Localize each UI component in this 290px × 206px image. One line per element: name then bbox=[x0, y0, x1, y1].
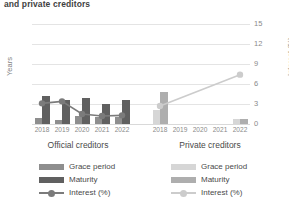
y-axis-right-tick: 15 bbox=[254, 19, 289, 28]
group-caption-official: Official creditors bbox=[23, 140, 133, 150]
chart-title: and private creditors bbox=[4, 0, 90, 9]
legend-label-interest: Interest (%) bbox=[69, 186, 110, 199]
interest-marker bbox=[119, 112, 125, 118]
legend-swatch-maturity-icon bbox=[39, 177, 64, 183]
y-axis-right-tick: 3 bbox=[254, 99, 289, 108]
legend-swatch-grace-icon bbox=[39, 164, 64, 170]
interest-marker bbox=[39, 100, 45, 106]
legend-item-grace-private[interactable]: Grace period bbox=[171, 160, 247, 173]
interest-marker bbox=[99, 113, 105, 119]
y-axis-left-title: Years bbox=[5, 47, 14, 87]
legend-line-marker-interest-icon bbox=[39, 189, 64, 196]
interest-series-overlay bbox=[32, 24, 250, 124]
interest-line bbox=[160, 75, 240, 106]
y-axis-right-title: Interest (%) bbox=[286, 29, 290, 85]
y-axis-right-tick: 6 bbox=[254, 79, 289, 88]
legend-item-interest-private[interactable]: Interest (%) bbox=[171, 186, 247, 199]
legend-item-grace-official[interactable]: Grace period bbox=[39, 160, 115, 173]
legend-label-grace: Grace period bbox=[69, 160, 115, 173]
legend-label-grace: Grace period bbox=[201, 160, 247, 173]
interest-marker bbox=[237, 71, 243, 77]
group-caption-private: Private creditors bbox=[155, 140, 265, 150]
legend-label-interest: Interest (%) bbox=[201, 186, 242, 199]
interest-marker bbox=[59, 98, 65, 104]
interest-marker bbox=[79, 111, 85, 117]
legend-line-marker-interest-icon bbox=[171, 189, 196, 196]
legend-item-interest-official[interactable]: Interest (%) bbox=[39, 186, 115, 199]
gridline bbox=[32, 124, 250, 125]
legend-official: Grace period Maturity Interest (%) bbox=[39, 160, 115, 199]
legend-swatch-grace-icon bbox=[171, 164, 196, 170]
x-axis-tick: 2022 bbox=[110, 126, 134, 133]
plot-area: 0010320630940125015 bbox=[32, 24, 250, 124]
x-axis-tick: 2022 bbox=[228, 126, 252, 133]
y-axis-right-tick: 0 bbox=[254, 119, 289, 128]
legend-label-maturity: Maturity bbox=[201, 173, 229, 186]
y-axis-right-tick: 12 bbox=[254, 39, 289, 48]
interest-marker bbox=[157, 103, 163, 109]
y-axis-right-tick: 9 bbox=[254, 59, 289, 68]
legend-swatch-maturity-icon bbox=[171, 177, 196, 183]
legend-label-maturity: Maturity bbox=[69, 173, 97, 186]
legend-private: Grace period Maturity Interest (%) bbox=[171, 160, 247, 199]
legend-item-maturity-private[interactable]: Maturity bbox=[171, 173, 247, 186]
chart-container: and private creditors Years Interest (%)… bbox=[0, 0, 289, 206]
legend-item-maturity-official[interactable]: Maturity bbox=[39, 173, 115, 186]
